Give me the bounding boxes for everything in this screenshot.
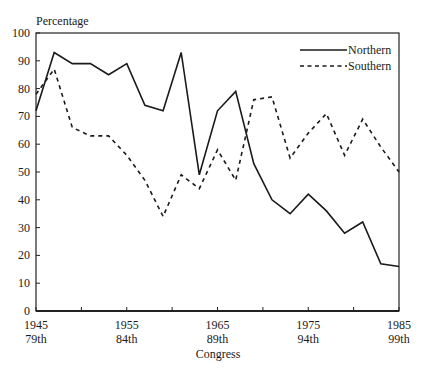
x-axis: 194579th195584th196589th197594th198599th (24, 307, 411, 346)
y-tick-label: 10 (18, 276, 30, 290)
line-chart: Percentage 0102030405060708090100 194579… (0, 0, 427, 379)
y-tick-label: 100 (12, 26, 30, 40)
y-axis-label: Percentage (36, 14, 89, 28)
x-tick-label-year: 1955 (115, 318, 139, 332)
x-tick-label-congress: 94th (298, 332, 319, 346)
x-tick-label-year: 1975 (296, 318, 320, 332)
x-tick-label-congress: 89th (207, 332, 228, 346)
x-tick-label-congress: 79th (25, 332, 46, 346)
y-tick-label: 20 (18, 248, 30, 262)
legend-northern-label: Northern (348, 43, 391, 57)
x-tick-label-year: 1985 (387, 318, 411, 332)
x-tick-label-year: 1945 (24, 318, 48, 332)
y-tick-label: 50 (18, 165, 30, 179)
y-tick-label: 40 (18, 193, 30, 207)
y-tick-label: 0 (24, 304, 30, 318)
y-tick-label: 30 (18, 221, 30, 235)
legend-southern-label: Southern (348, 59, 391, 73)
series-southern-line (36, 69, 399, 216)
x-tick-label-congress: 84th (116, 332, 137, 346)
y-tick-label: 70 (18, 109, 30, 123)
x-tick-label-year: 1965 (206, 318, 230, 332)
plot-frame (36, 33, 399, 311)
x-tick-label-congress: 99th (388, 332, 409, 346)
y-tick-label: 90 (18, 54, 30, 68)
series-northern-line (36, 53, 399, 267)
y-tick-label: 80 (18, 82, 30, 96)
y-tick-label: 60 (18, 137, 30, 151)
legend: Northern Southern (300, 43, 391, 73)
x-axis-label: Congress (196, 347, 241, 361)
